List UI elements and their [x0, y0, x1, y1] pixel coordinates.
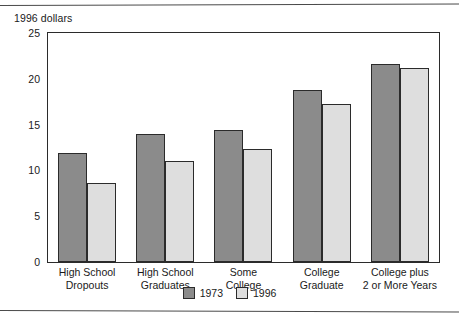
bar-1973[interactable]	[136, 134, 165, 262]
legend-swatch-icon	[236, 287, 248, 299]
bottom-rule	[0, 310, 459, 313]
bar-1973[interactable]	[58, 153, 87, 262]
bar-group	[48, 33, 126, 262]
y-tick-label: 20	[28, 74, 40, 85]
bar-1996[interactable]	[87, 183, 116, 262]
y-tick-label: 15	[28, 119, 40, 130]
bar-1996[interactable]	[165, 161, 194, 262]
plot-area	[48, 33, 439, 262]
legend-swatch-icon	[183, 287, 195, 299]
legend-item[interactable]: 1973	[183, 287, 223, 299]
y-tick-label: 10	[28, 165, 40, 176]
y-axis: 0510152025	[0, 0, 47, 263]
bar-1973[interactable]	[293, 90, 322, 262]
chart-page: 1996 dollars 0510152025 High School Drop…	[0, 0, 459, 318]
bar-1996[interactable]	[400, 68, 429, 262]
bar-group	[283, 33, 361, 262]
legend-item[interactable]: 1996	[236, 287, 276, 299]
bar-1973[interactable]	[214, 130, 243, 262]
y-tick-label: 5	[34, 211, 40, 222]
y-tick-label: 25	[28, 28, 40, 39]
bar-1973[interactable]	[371, 64, 400, 262]
bar-1996[interactable]	[322, 104, 351, 262]
legend-label: 1996	[253, 288, 276, 299]
legend-label: 1973	[200, 288, 223, 299]
bar-group	[126, 33, 204, 262]
bar-1996[interactable]	[243, 149, 272, 262]
bar-group	[361, 33, 439, 262]
bar-group	[204, 33, 282, 262]
chart-legend: 19731996	[0, 287, 459, 299]
top-rule	[0, 4, 459, 6]
